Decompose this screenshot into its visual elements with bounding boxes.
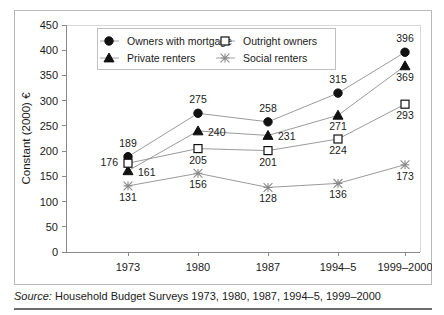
data-label: 201 [259, 156, 277, 168]
marker-filled-circle [334, 89, 342, 97]
marker-cross-x [401, 160, 410, 169]
marker-open-square [334, 135, 342, 143]
x-tick-label: 1994–5 [320, 261, 357, 273]
marker-cross-x [221, 54, 230, 63]
marker-filled-triangle [193, 126, 203, 135]
marker-cross-x [334, 179, 343, 188]
data-label: 231 [278, 130, 296, 142]
legend-label: Social renters [243, 52, 307, 64]
y-tick-label: 150 [40, 170, 58, 182]
marker-filled-triangle [400, 61, 410, 70]
y-tick-label: 0 [52, 246, 58, 258]
data-label: 136 [329, 188, 347, 200]
series-line [128, 165, 405, 188]
data-label: 173 [396, 170, 414, 182]
marker-filled-circle [264, 118, 272, 126]
data-label: 161 [138, 166, 156, 178]
data-label: 315 [329, 73, 347, 85]
data-label: 128 [259, 192, 277, 204]
data-label: 275 [189, 93, 207, 105]
line-chart: 050100150200250300350400450Constant (200… [14, 10, 432, 285]
data-label: 131 [119, 191, 137, 203]
data-label: 271 [329, 120, 347, 132]
marker-open-square [221, 37, 229, 45]
marker-open-square [401, 100, 409, 108]
marker-open-square [124, 159, 132, 167]
data-label: 240 [208, 126, 226, 138]
source-label: Source: [14, 290, 52, 302]
data-label: 258 [259, 102, 277, 114]
y-tick-label: 100 [40, 196, 58, 208]
marker-open-square [194, 145, 202, 153]
source-caption: Source: Household Budget Surveys 1973, 1… [14, 290, 432, 302]
y-tick-label: 300 [40, 95, 58, 107]
y-tick-label: 250 [40, 120, 58, 132]
y-tick-label: 200 [40, 145, 58, 157]
x-tick-label: 1973 [116, 261, 140, 273]
y-tick-label: 350 [40, 69, 58, 81]
series-3: 176205201224293 [100, 100, 413, 168]
figure-root: 050100150200250300350400450Constant (200… [0, 0, 444, 315]
data-label: 396 [396, 32, 414, 44]
bottom-rule [14, 308, 432, 310]
x-tick-label: 1999–2000 [377, 261, 432, 273]
data-label: 156 [189, 178, 207, 190]
marker-cross-x [194, 169, 203, 178]
marker-open-square [264, 147, 272, 155]
y-tick-label: 450 [40, 19, 58, 31]
legend-label: Private renters [127, 52, 195, 64]
marker-cross-x [264, 183, 273, 192]
marker-filled-circle [401, 48, 409, 56]
data-label: 224 [329, 144, 347, 156]
legend-label: Outright owners [243, 35, 317, 47]
x-tick-label: 1987 [256, 261, 280, 273]
y-axis-title: Constant (2000) € [20, 92, 32, 185]
data-label: 369 [396, 71, 414, 83]
marker-filled-circle [194, 109, 202, 117]
data-label: 176 [100, 156, 118, 168]
data-label: 189 [119, 137, 137, 149]
data-label: 205 [189, 154, 207, 166]
data-label: 293 [396, 109, 414, 121]
y-tick-label: 50 [46, 221, 58, 233]
marker-filled-circle [105, 37, 113, 45]
source-text: Household Budget Surveys 1973, 1980, 198… [55, 290, 381, 302]
legend: Owners with mortgageOutright ownersPriva… [97, 28, 335, 69]
y-tick-label: 400 [40, 44, 58, 56]
x-tick-label: 1980 [186, 261, 210, 273]
marker-cross-x [124, 182, 133, 191]
marker-filled-triangle [333, 110, 343, 119]
